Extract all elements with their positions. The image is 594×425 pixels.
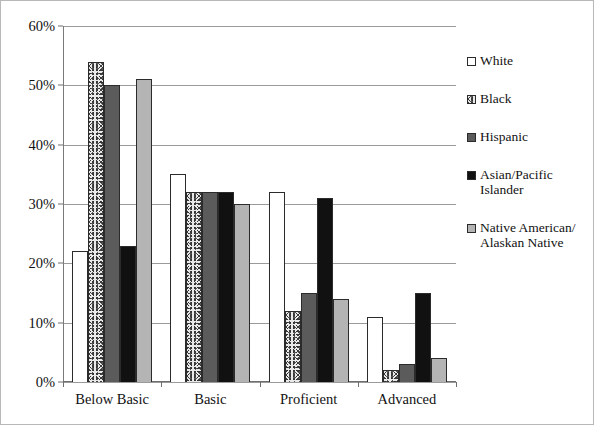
y-axis-tick-label: 0% — [1, 374, 55, 391]
bar-groups — [63, 26, 456, 382]
bar[interactable] — [431, 358, 447, 382]
x-axis-category-label: Below Basic — [63, 391, 161, 408]
legend-item-label: White — [480, 53, 513, 68]
y-axis-tick-label: 30% — [1, 196, 55, 213]
bar-group — [63, 26, 161, 382]
chart-legend: WhiteBlackHispanicAsian/Pacific Islander… — [467, 53, 591, 273]
bar[interactable] — [301, 293, 317, 382]
y-axis-tick-label: 50% — [1, 77, 55, 94]
bar[interactable] — [136, 79, 152, 382]
x-axis-category-label: Proficient — [260, 391, 358, 408]
x-axis-tick-mark — [63, 382, 64, 387]
bar[interactable] — [269, 192, 285, 382]
bar[interactable] — [415, 293, 431, 382]
bar[interactable] — [88, 62, 104, 382]
bar-group — [358, 26, 456, 382]
x-axis-category-label: Basic — [161, 391, 259, 408]
plot-area — [63, 26, 456, 382]
bar[interactable] — [202, 192, 218, 382]
bar-chart: 0%10%20%30%40%50%60% Below BasicBasicPro… — [0, 0, 594, 425]
bar[interactable] — [72, 251, 88, 382]
x-axis-category-labels: Below BasicBasicProficientAdvanced — [63, 391, 456, 408]
bar[interactable] — [234, 204, 250, 382]
legend-item-label: Native American/ Alaskan Native — [480, 220, 591, 250]
legend-swatch-icon — [467, 133, 476, 142]
bar[interactable] — [170, 174, 186, 382]
bar[interactable] — [333, 299, 349, 382]
bar-group — [161, 26, 259, 382]
bar[interactable] — [383, 370, 399, 382]
bar[interactable] — [317, 198, 333, 382]
y-axis-tick-label: 40% — [1, 136, 55, 153]
bar-group — [260, 26, 358, 382]
x-axis-tick-mark — [358, 382, 359, 387]
x-axis-tick-mark — [260, 382, 261, 387]
legend-item-label: Asian/Pacific Islander — [480, 167, 591, 197]
bar[interactable] — [285, 311, 301, 382]
x-axis-tick-mark — [161, 382, 162, 387]
legend-item[interactable]: Hispanic — [467, 129, 591, 144]
bar[interactable] — [399, 364, 415, 382]
bar[interactable] — [218, 192, 234, 382]
bar[interactable] — [120, 246, 136, 382]
legend-item[interactable]: White — [467, 53, 591, 68]
y-axis-tick-label: 20% — [1, 255, 55, 272]
bar[interactable] — [367, 317, 383, 382]
legend-swatch-icon — [467, 95, 476, 104]
legend-swatch-icon — [467, 224, 476, 233]
legend-item[interactable]: Native American/ Alaskan Native — [467, 220, 591, 250]
legend-item[interactable]: Black — [467, 91, 591, 106]
bar[interactable] — [186, 192, 202, 382]
legend-item[interactable]: Asian/Pacific Islander — [467, 167, 591, 197]
y-axis-tick-label: 60% — [1, 18, 55, 35]
legend-item-label: Hispanic — [480, 129, 528, 144]
bar[interactable] — [104, 85, 120, 382]
x-axis-tick-mark — [456, 382, 457, 387]
legend-item-label: Black — [480, 91, 512, 106]
x-axis-category-label: Advanced — [358, 391, 456, 408]
y-axis-tick-label: 10% — [1, 314, 55, 331]
legend-swatch-icon — [467, 57, 476, 66]
legend-swatch-icon — [467, 171, 476, 180]
